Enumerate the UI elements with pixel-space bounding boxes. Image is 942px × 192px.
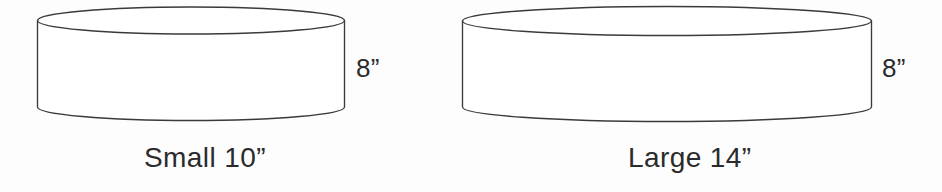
small-cylinder-height-label: 8” <box>356 54 380 82</box>
small-cylinder-side-fill <box>38 21 345 121</box>
large-cylinder-caption: Large 14” <box>628 143 751 173</box>
large-cylinder-height-label: 8” <box>882 54 906 82</box>
small-cylinder-graphic <box>38 7 345 121</box>
cylinders-illustration <box>0 0 942 192</box>
large-cylinder-graphic <box>463 7 872 122</box>
diagram-canvas: 8” 8” Small 10” Large 14” <box>0 0 942 192</box>
small-cylinder-caption: Small 10” <box>144 143 266 173</box>
